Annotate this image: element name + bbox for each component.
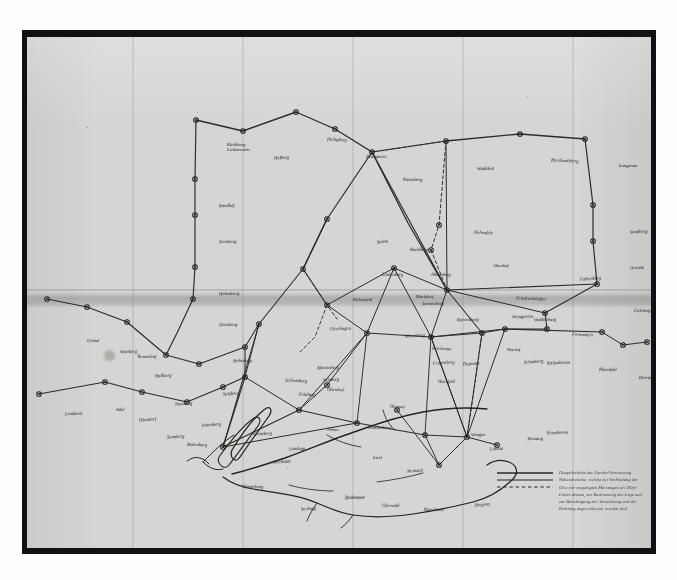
place-label: Reichenau — [432, 347, 452, 352]
place-label: Bodensee — [345, 495, 365, 501]
legend-text-block: Hauptdreiecke der Landes-Vermessung Nebe… — [559, 469, 647, 513]
place-label: Rundhof — [219, 204, 235, 209]
place-label: Tettnang — [527, 437, 543, 442]
place-label: Hohenegg — [233, 359, 252, 364]
place-label: Rosenberg — [403, 178, 423, 183]
place-label: Wartberg — [120, 350, 137, 355]
place-label: Neuhof — [507, 348, 520, 353]
place-label: Steinberg — [219, 240, 237, 245]
place-label: Hallberg — [155, 374, 172, 379]
place-label: Leutkirch — [65, 412, 83, 417]
place-label: Wangen — [471, 433, 486, 438]
place-label: Uberlingen — [330, 327, 351, 332]
place-label: Feldberg — [299, 393, 316, 398]
place-label: Uferwald — [382, 504, 399, 509]
place-label: Giebel — [87, 339, 99, 344]
place-label: Salem — [377, 240, 389, 245]
place-label: Hohenberg — [219, 292, 240, 297]
map-sheet: KirchbergLichtensteinHofbergHeiligbergNe… — [27, 37, 651, 548]
place-label: Rheinfeld — [599, 368, 617, 373]
place-label: Lichtenstein — [227, 148, 249, 153]
place-label: Weingarten — [512, 315, 533, 320]
place-label: Buchberg — [410, 248, 428, 253]
place-label: Friedrichshafen — [516, 296, 546, 302]
place-label: Wasserburg — [242, 485, 264, 490]
place-label: Lindenberg — [382, 273, 403, 278]
place-label: Schlossberg — [285, 379, 307, 384]
place-label: Waldenburg — [534, 318, 556, 323]
place-label: Lindau — [490, 447, 503, 452]
place-label: Romanshorn — [368, 426, 392, 431]
place-label: Nussberg — [175, 402, 192, 407]
place-label: Ravensburg — [457, 318, 479, 323]
place-label: Steinach — [407, 469, 423, 474]
place-label: Oberdorf — [327, 388, 344, 393]
place-label: Hochfeld — [438, 380, 455, 385]
place-label: Altenhof — [493, 264, 509, 269]
place-label: Kreuzberg — [253, 432, 272, 437]
place-label: Hofberg — [274, 156, 289, 161]
lake-outline — [187, 408, 516, 528]
place-label: Waldshut — [477, 167, 494, 172]
place-label: Birkenfeld — [353, 298, 372, 303]
place-label: Sulzberg — [323, 378, 339, 383]
place-label: Rorschach — [424, 508, 444, 513]
place-label: Ottenberg — [219, 323, 238, 328]
place-label: Bodenburg — [187, 443, 207, 448]
place-label: Sonnenberg — [422, 302, 444, 307]
place-label: Hagnau — [390, 405, 405, 410]
place-label: Bernhardsberg — [551, 159, 579, 165]
place-label: Heiligberg — [327, 138, 347, 143]
place-label: Freienstein — [572, 333, 593, 338]
place-label: Marienberg — [317, 366, 339, 371]
place-label: Hochstatt — [273, 460, 291, 466]
place-label: Arbon — [327, 428, 339, 433]
place-label: Markdorf — [416, 295, 434, 300]
place-label: Langenau — [619, 164, 637, 169]
place-label: Eichberg — [634, 309, 651, 314]
primary-lines — [39, 112, 647, 465]
place-label: Insel — [373, 456, 382, 461]
place-label: Degenau — [463, 362, 480, 367]
photograph-canvas: KirchbergLichtensteinHofbergHeiligbergNe… — [0, 0, 677, 580]
place-label: Tannenhof — [137, 355, 156, 360]
place-label: Hohenfels — [474, 231, 493, 236]
place-label: Sandberg — [630, 230, 648, 236]
place-label: Ahornberg — [431, 273, 451, 278]
place-label: Dornau — [639, 376, 651, 381]
place-label: Seeburg — [301, 507, 316, 512]
place-label: Kaltenbrunn — [547, 361, 570, 366]
place-label: Neuhausen — [366, 155, 386, 160]
place-label: Adel — [116, 408, 125, 413]
place-label: Landegg — [289, 447, 305, 452]
place-label: Grunau — [630, 266, 645, 271]
place-label: Kressbronn — [547, 431, 568, 436]
